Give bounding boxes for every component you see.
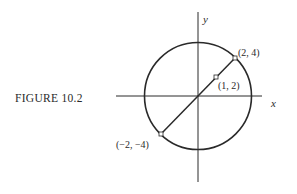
figure-diagram: y x (2, 4) (1, 2) (−2, −4)	[0, 0, 297, 194]
point-marker-neg2-neg4	[159, 132, 163, 136]
point-label-2-4: (2, 4)	[238, 47, 260, 59]
x-axis-label: x	[270, 97, 276, 109]
y-axis-label: y	[202, 13, 208, 25]
point-marker-2-4	[233, 56, 237, 60]
point-label-neg2-neg4: (−2, −4)	[116, 139, 149, 151]
point-marker-1-2	[214, 75, 218, 79]
point-label-1-2: (1, 2)	[218, 80, 240, 92]
